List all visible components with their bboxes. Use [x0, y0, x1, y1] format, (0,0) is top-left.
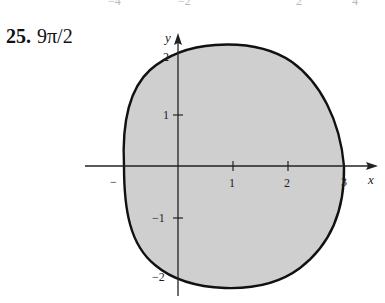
x-tick-label-1: 1	[229, 176, 235, 190]
polar-region-plot: x y − 1 2 3 2 1 −1 −2	[0, 0, 385, 303]
y-axis-label: y	[163, 30, 171, 45]
x-axis-label: x	[367, 172, 374, 187]
y-tick-label-neg2: −2	[152, 270, 165, 284]
y-tick-label-2: 2	[163, 50, 169, 64]
y-tick-label-1: 1	[163, 108, 169, 122]
x-tick-label-3: 3	[341, 175, 347, 189]
x-tick-label-neg1: −	[110, 175, 117, 189]
y-tick-label-neg1: −1	[152, 211, 165, 225]
x-tick-label-2: 2	[284, 176, 290, 190]
